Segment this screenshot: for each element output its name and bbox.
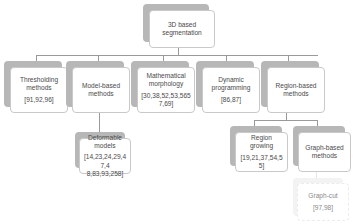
node-card: Dynamic programming [86,87]	[202, 67, 260, 113]
node-card: Thresholding methods [91,92,96]	[10, 67, 68, 113]
node-label: Deformable models	[88, 134, 122, 150]
node-label: Region growing	[239, 134, 284, 150]
node-label: Region-based methods	[275, 82, 316, 98]
node-region-growing: Region growing [19,21,37,54,55]	[230, 126, 288, 172]
node-label: Thresholding methods	[20, 76, 58, 92]
node-label: Graph-based methods	[305, 144, 344, 160]
connector-level1-bus	[36, 55, 318, 56]
node-references: [30,38,52,53,565 7,69]	[141, 92, 191, 108]
connector-model-to-deformable	[99, 112, 100, 132]
node-label: 3D based segmentation	[162, 21, 202, 37]
node-label: Model-based methods	[82, 82, 120, 98]
node-label: Dynamic programming	[212, 76, 251, 92]
node-card: Graph-based methods	[298, 132, 351, 172]
node-region-based-methods: Region-based methods	[261, 61, 325, 113]
node-mathematical-morphology: Mathematical morphology [30,38,52,53,565…	[131, 61, 195, 113]
node-card: Graph-cut [97,98]	[297, 183, 349, 221]
node-card: Model-based methods	[72, 67, 130, 113]
node-references: [14,23,24,29,47,4 8,83,93,258]	[83, 153, 127, 178]
node-3d-based-segmentation: 3D based segmentation	[143, 4, 215, 48]
connector-region-down	[286, 112, 287, 120]
node-dynamic-programming: Dynamic programming [86,87]	[196, 61, 260, 113]
node-thresholding-methods: Thresholding methods [91,92,96]	[4, 61, 68, 113]
node-card: Deformable models [14,23,24,29,47,4 8,83…	[79, 138, 131, 174]
node-card: Mathematical morphology [30,38,52,53,565…	[137, 67, 195, 113]
node-graph-cut: Graph-cut [97,98]	[293, 178, 349, 222]
node-card: 3D based segmentation	[149, 10, 215, 48]
node-label: Graph-cut	[308, 192, 337, 200]
node-references: [19,21,37,54,55]	[239, 154, 284, 170]
node-graph-based-methods: Graph-based methods	[293, 126, 351, 172]
node-deformable-models: Deformable models [14,23,24,29,47,4 8,83…	[75, 132, 131, 174]
connector-region-bus	[254, 120, 318, 121]
node-references: [86,87]	[221, 96, 241, 104]
node-references: [91,92,96]	[24, 96, 53, 104]
node-label: Mathematical morphology	[146, 72, 185, 88]
node-references: [97,98]	[313, 204, 333, 212]
node-card: Region-based methods	[267, 67, 325, 113]
node-card: Region growing [19,21,37,54,55]	[235, 132, 288, 172]
node-model-based-methods: Model-based methods	[66, 61, 130, 113]
